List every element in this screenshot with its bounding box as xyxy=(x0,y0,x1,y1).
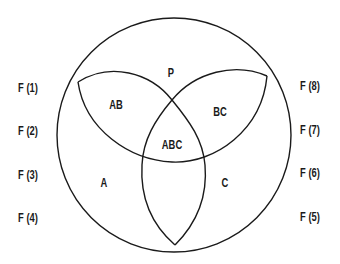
region-label-c: C xyxy=(222,177,229,189)
side-label-f8: F (8) xyxy=(300,80,320,92)
side-label-f4: F (4) xyxy=(18,212,38,224)
side-label-f2: F (2) xyxy=(18,125,38,137)
region-label-abc: ABC xyxy=(162,139,182,151)
side-label-f3: F (3) xyxy=(18,169,38,181)
venn-diagram-svg xyxy=(0,0,340,264)
venn-diagram: P AB BC ABC A C F (1) F (2) F (3) F (4) … xyxy=(0,0,340,264)
arc-left-top-to-bottom-tip xyxy=(78,72,205,245)
side-label-f1: F (1) xyxy=(18,82,38,94)
region-label-p: P xyxy=(168,67,174,79)
outer-circle-p xyxy=(57,18,291,252)
side-label-f7: F (7) xyxy=(300,124,320,136)
region-label-bc: BC xyxy=(213,106,227,118)
region-label-a: A xyxy=(101,177,108,189)
side-label-f5: F (5) xyxy=(300,211,320,223)
side-label-f6: F (6) xyxy=(300,167,320,179)
region-label-ab: AB xyxy=(109,99,123,111)
